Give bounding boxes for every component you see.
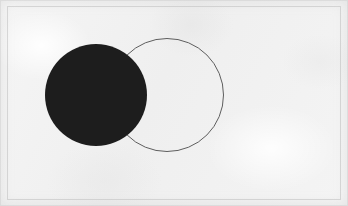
- image-canvas: [0, 0, 348, 206]
- black-filled-circle: [45, 44, 147, 146]
- shape-layer: [0, 0, 348, 206]
- circles-drawing: [0, 0, 348, 206]
